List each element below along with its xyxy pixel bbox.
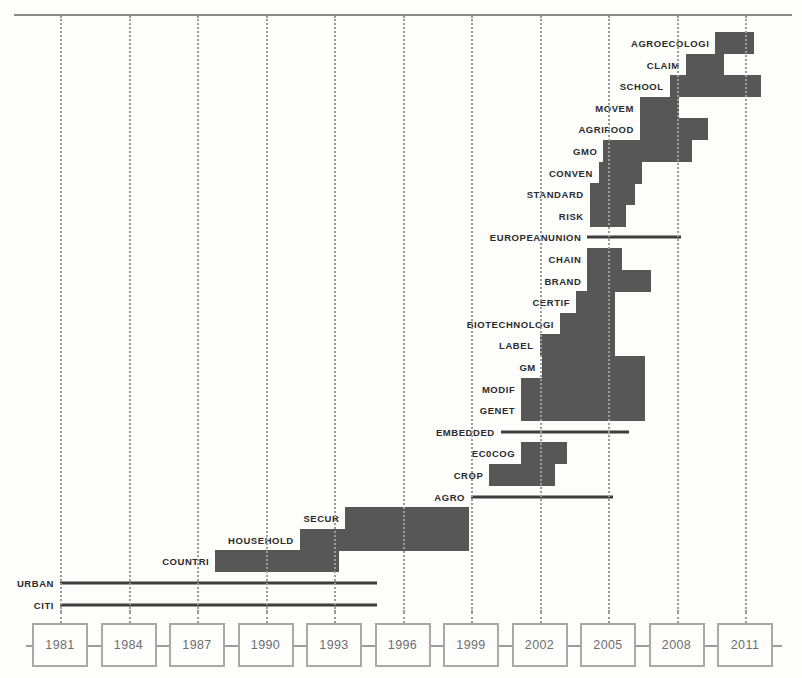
burst-row: URBAN — [0, 572, 802, 594]
burst-bar — [670, 75, 761, 97]
burst-baseline — [60, 603, 377, 606]
burst-row: GMO — [0, 140, 802, 162]
burst-bar — [540, 334, 615, 356]
tick-stub-2011 — [745, 612, 747, 623]
burst-term-label: MOVEM — [595, 102, 638, 113]
burst-term-label: SCHOOL — [620, 81, 668, 92]
burst-row: STANDARD — [0, 183, 802, 205]
year-tick-1981: 1981 — [32, 623, 88, 667]
burst-row: BIOTECHNOLOGI — [0, 313, 802, 335]
burst-term-label: EUROPEANUNION — [490, 232, 586, 243]
tick-stub-2002 — [540, 612, 542, 623]
burst-bar — [587, 248, 621, 270]
burst-term-label: GMO — [573, 146, 601, 157]
year-axis: 1981198419871990199319961999200220052008… — [0, 612, 802, 678]
burst-term-label: SECUR — [303, 513, 343, 524]
burst-bar — [560, 313, 615, 335]
plot-area: AGROECOLOGICLAIMSCHOOLMOVEMAGRIFOODGMOCO… — [0, 0, 802, 612]
burst-row: RISK — [0, 205, 802, 227]
burst-bar — [587, 270, 651, 292]
burst-bar — [590, 183, 636, 205]
gridline-1996 — [403, 16, 405, 612]
tick-stub-1999 — [471, 612, 473, 623]
year-tick-2008: 2008 — [649, 623, 705, 667]
burst-row: HOUSEHOLD — [0, 529, 802, 551]
tick-stub-1987 — [197, 612, 199, 623]
burst-bar — [686, 54, 725, 76]
burst-bar — [489, 464, 555, 486]
year-tick-1984: 1984 — [101, 623, 157, 667]
burst-bar — [640, 118, 709, 140]
burst-bar — [599, 162, 642, 184]
year-tick-2002: 2002 — [512, 623, 568, 667]
burst-row: GENET — [0, 399, 802, 421]
burst-baseline — [471, 495, 613, 498]
gridline-1984 — [129, 16, 131, 612]
burst-bar — [715, 32, 754, 54]
burst-baseline — [60, 582, 377, 585]
burst-term-label: GM — [519, 362, 539, 373]
burst-row: AGRO — [0, 486, 802, 508]
tick-stub-1993 — [334, 612, 336, 623]
burst-row: SCHOOL — [0, 75, 802, 97]
burst-term-label: BIOTECHNOLOGI — [467, 318, 558, 329]
burst-row: EUROPEANUNION — [0, 226, 802, 248]
gridline-2011 — [745, 16, 747, 612]
burst-row: CONVEN — [0, 162, 802, 184]
burst-bar — [603, 140, 692, 162]
burst-term-label: AGROECOLOGI — [631, 38, 713, 49]
burst-row: BRAND — [0, 270, 802, 292]
burst-row: AGRIFOOD — [0, 118, 802, 140]
burst-bar — [215, 550, 338, 572]
year-tick-1996: 1996 — [375, 623, 431, 667]
year-tick-2005: 2005 — [580, 623, 636, 667]
burst-term-label: GENET — [480, 405, 519, 416]
burst-term-label: URBAN — [17, 578, 58, 589]
gridline-1993 — [334, 16, 336, 612]
burst-row: GM — [0, 356, 802, 378]
year-tick-1987: 1987 — [169, 623, 225, 667]
burst-bar — [640, 97, 679, 119]
gridline-1981 — [60, 16, 62, 612]
tick-stub-1984 — [129, 612, 131, 623]
burst-row: EC0COG — [0, 442, 802, 464]
burst-row: COUNTRI — [0, 550, 802, 572]
burst-bar — [542, 356, 645, 378]
burst-term-label: RISK — [559, 210, 588, 221]
burst-term-label: MODIF — [482, 383, 519, 394]
burst-bar — [345, 507, 468, 529]
burst-bar — [300, 529, 469, 551]
tick-stub-2008 — [677, 612, 679, 623]
gridline-2005 — [608, 16, 610, 612]
year-tick-2011: 2011 — [717, 623, 773, 667]
burst-row: CROP — [0, 464, 802, 486]
burst-term-label: BRAND — [544, 275, 585, 286]
burst-term-label: HOUSEHOLD — [228, 534, 298, 545]
year-tick-1990: 1990 — [238, 623, 294, 667]
burst-term-label: EC0COG — [472, 448, 519, 459]
tick-stub-1996 — [403, 612, 405, 623]
year-tick-1993: 1993 — [306, 623, 362, 667]
burst-term-label: CONVEN — [549, 167, 597, 178]
burst-term-label: STANDARD — [527, 189, 588, 200]
burst-row: LABEL — [0, 334, 802, 356]
burst-term-label: COUNTRI — [162, 556, 213, 567]
burst-row: MOVEM — [0, 97, 802, 119]
gridline-1990 — [266, 16, 268, 612]
burst-term-label: CITI — [34, 599, 58, 610]
burst-term-label: EMBEDDED — [436, 426, 499, 437]
burst-timeline-chart: AGROECOLOGICLAIMSCHOOLMOVEMAGRIFOODGMOCO… — [0, 0, 802, 678]
burst-bar — [521, 442, 567, 464]
tick-stub-1990 — [266, 612, 268, 623]
burst-row: AGROECOLOGI — [0, 32, 802, 54]
burst-row: CLAIM — [0, 54, 802, 76]
tick-stub-1981 — [60, 612, 62, 623]
gridline-1987 — [197, 16, 199, 612]
burst-term-label: AGRO — [434, 491, 469, 502]
tick-stub-2005 — [608, 612, 610, 623]
gridline-2002 — [540, 16, 542, 612]
burst-row: CERTIF — [0, 291, 802, 313]
burst-baseline — [587, 236, 681, 239]
burst-row: EMBEDDED — [0, 421, 802, 443]
burst-row: CHAIN — [0, 248, 802, 270]
